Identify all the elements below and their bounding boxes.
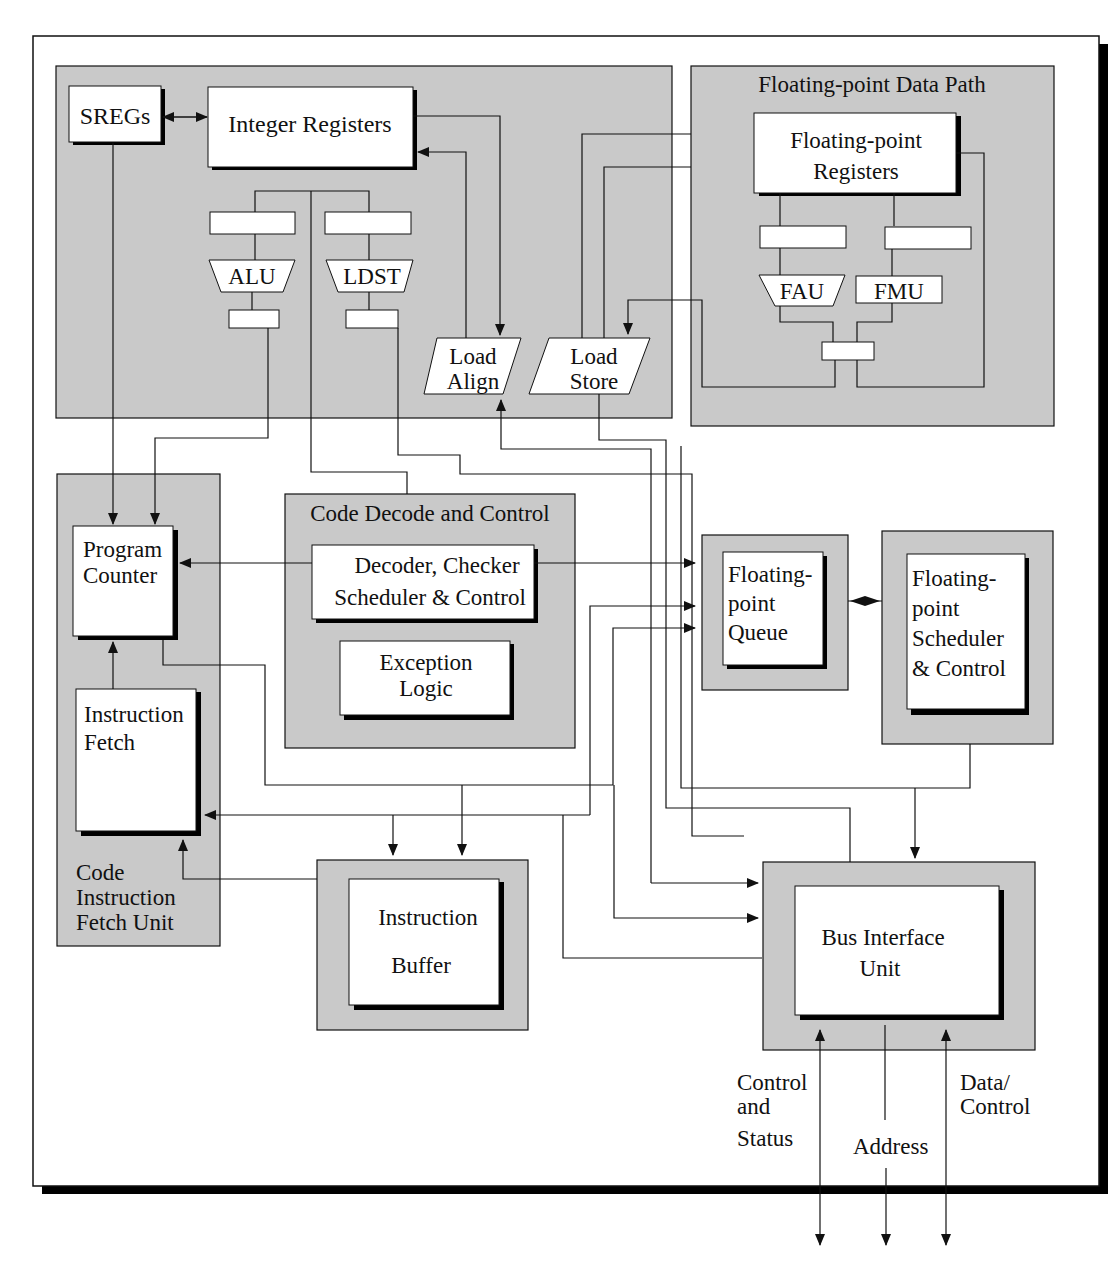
fp-registers-label-2: Registers [813,159,899,184]
decode-control-title: Code Decode and Control [310,501,550,526]
fetch-unit-title-3: Fetch Unit [76,910,174,935]
sregs-label: SREGs [80,103,151,129]
fmu-input-latch [885,227,971,249]
decoder-label-1: Decoder, Checker [354,553,519,578]
control-status-label-3: Status [737,1126,793,1151]
load-store-label-1: Load [570,344,618,369]
fp-queue-label-3: Queue [728,620,788,645]
fetch-unit-title-1: Code [76,860,125,885]
load-store-label-2: Store [570,369,619,394]
instruction-fetch-label-1: Instruction [84,702,184,727]
fau-input-latch [760,226,846,248]
alu-output-latch [229,310,279,328]
control-status-label-1: Control [737,1070,807,1095]
fp-output-latch [822,342,874,360]
instruction-buffer-box[interactable] [349,879,499,1005]
instruction-buffer-label-2: Buffer [391,953,451,978]
fp-scheduler-label-4: & Control [912,656,1006,681]
fetch-unit-title-2: Instruction [76,885,176,910]
address-label: Address [853,1134,928,1159]
load-align-label-2: Align [447,369,500,394]
alu-input-latch [210,212,295,234]
ldst-input-latch [325,212,411,234]
data-control-label-1: Data/ [960,1070,1010,1095]
fp-scheduler-label-3: Scheduler [912,626,1004,651]
fau-label: FAU [780,279,825,304]
alu-label: ALU [228,264,276,289]
fmu-label: FMU [874,279,924,304]
fp-scheduler-label-2: point [912,596,960,621]
fp-queue-label-1: Floating- [728,562,812,587]
control-status-label-2: and [737,1094,771,1119]
integer-registers-label: Integer Registers [228,111,391,137]
fp-scheduler-label-1: Floating- [912,566,996,591]
fp-datapath-title: Floating-point Data Path [758,72,986,97]
load-align-label-1: Load [449,344,497,369]
fp-queue-label-2: point [728,591,776,616]
bus-interface-box[interactable] [795,886,999,1015]
cpu-block-diagram: SREGs Integer Registers ALU LDST Load Al… [0,0,1114,1273]
bus-interface-label-2: Unit [860,956,902,981]
bus-interface-label-1: Bus Interface [821,925,944,950]
data-control-label-2: Control [960,1094,1030,1119]
program-counter-label-1: Program [83,537,162,562]
decoder-label-2: Scheduler & Control [334,585,526,610]
fp-registers-label-1: Floating-point [790,128,922,153]
exception-logic-label-1: Exception [379,650,473,675]
instruction-buffer-label-1: Instruction [378,905,478,930]
instruction-fetch-label-2: Fetch [84,730,136,755]
exception-logic-label-2: Logic [399,676,453,701]
program-counter-label-2: Counter [83,563,157,588]
ldst-label: LDST [343,264,401,289]
ldst-output-latch [346,310,398,328]
